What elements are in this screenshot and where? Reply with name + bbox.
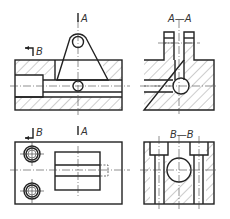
front-lug [57,34,108,80]
front-hatch-top-right [101,60,122,80]
cut-label-a-bottom: A [80,126,88,137]
front-hatch-bottom [15,97,122,110]
top-view: A B [10,126,130,204]
technical-drawing: A B A—A A B [0,0,230,219]
cut-label-b: B [36,46,43,57]
section-b-b-label: B—B [170,129,194,140]
cut-label-b-bottom: B [36,127,43,138]
section-a-a-label: A—A [167,13,192,24]
front-hatch-top-left [15,60,55,75]
section-a-a-view: A—A [140,13,218,114]
section-b-b-view: B—B [140,129,218,210]
front-view: A B [10,13,130,115]
cut-label-a: A [80,13,88,24]
